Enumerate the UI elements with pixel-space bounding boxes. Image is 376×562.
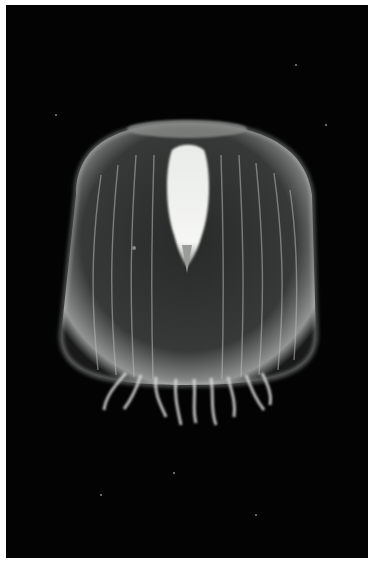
photo-frame bbox=[6, 5, 368, 558]
jellyfish-photo bbox=[6, 5, 368, 558]
